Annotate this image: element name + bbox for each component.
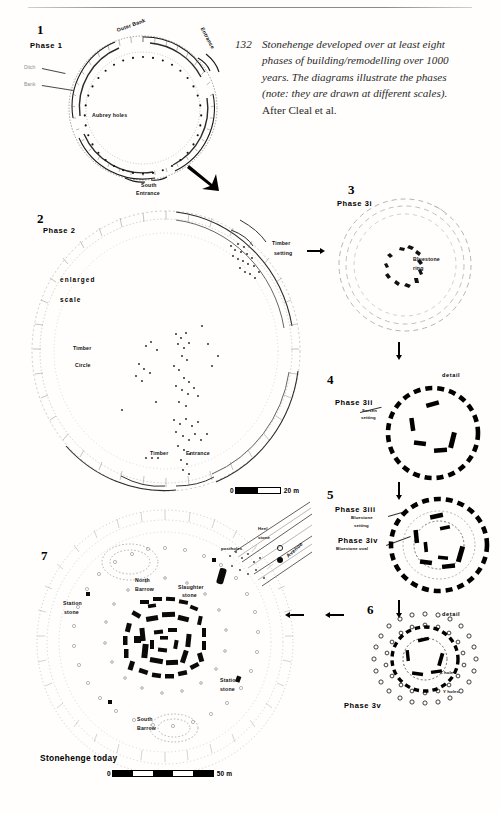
- figure-6-plan: [368, 608, 483, 708]
- figure-2-timber-entrance-label-1: Timber: [150, 450, 168, 456]
- figure-7-station-stone-label-3: Station: [220, 677, 239, 683]
- figure-2-enlarged-label: enlarged: [60, 276, 95, 283]
- figure-7-slaughter-stone-label-2: stone: [182, 592, 197, 598]
- figure-7-south-barrow-label-1: South: [137, 716, 153, 722]
- figure-2-scale-zero: 0: [230, 487, 234, 494]
- figure-7-postholes-label: postholes: [221, 546, 242, 551]
- caption-line-5: After Cleal et al.: [262, 104, 337, 116]
- caption-line-4: (note: they are drawn at different scale…: [262, 87, 447, 99]
- caption-number: 132: [235, 36, 252, 52]
- figure-7-plan: [22, 500, 312, 785]
- figure-3-plan: [330, 190, 480, 340]
- figure-7-scale-value: 50 m: [217, 770, 233, 777]
- figure-5-plan: [382, 490, 497, 600]
- figure-7-station-stone-label-4: stone: [220, 686, 235, 692]
- figure-7-scale-segments: [112, 770, 214, 777]
- page-canvas: 132 Stonehenge developed over at least e…: [0, 0, 500, 814]
- figure-7-south-barrow-label-2: Barrow: [137, 725, 156, 731]
- figure-7-heel-stone-label-2: stone: [258, 535, 270, 540]
- figure-5-number: 5: [327, 487, 334, 503]
- figure-7-north-barrow-label-1: North: [135, 577, 150, 583]
- figure-1-aubrey-holes-label: Aubrey holes: [92, 112, 127, 118]
- header-rule: [28, 7, 472, 8]
- figure-1-number: 1: [37, 22, 44, 38]
- figure-5-phase-b-label: Phase 3iv: [338, 536, 378, 545]
- arrow-fig2-to-fig3: [307, 248, 327, 254]
- figure-2-scale-value: 20 m: [284, 487, 300, 494]
- caption-line-3: years. The diagrams illustrate the phase…: [262, 71, 447, 83]
- figure-1-to-2-arrow: [186, 162, 220, 192]
- caption-line-2: phases of building/remodelling over 1000: [262, 54, 449, 66]
- figure-5-phase-a-label: Phase 3iii: [335, 505, 376, 514]
- arrow-fig3-to-fig4: [396, 342, 402, 362]
- figure-4-phase-label: Phase 3ii: [335, 398, 373, 407]
- figure-2-scale-bar: 0 20 m: [230, 487, 299, 494]
- figure-7-north-barrow-label-2: Barrow: [135, 586, 154, 592]
- figure-2-circle-label: Circle: [75, 362, 91, 368]
- figure-7-scale-zero: 0: [107, 770, 111, 777]
- figure-2-timber-label: Timber: [73, 345, 91, 351]
- figure-5-bluestone-setting-label-1: Bluestone: [351, 515, 373, 520]
- figure-1-ditch-label: Ditch: [24, 64, 35, 70]
- caption-line-1: Stonehenge developed over at least eight: [262, 38, 445, 50]
- figure-4-number: 4: [327, 372, 334, 388]
- figure-caption: 132 Stonehenge developed over at least e…: [262, 36, 484, 118]
- figure-7-title: Stonehenge today: [40, 753, 117, 763]
- figure-1-south-entrance-label: Entrance: [136, 190, 160, 196]
- figure-3-bluestone-ring-label-2: ring: [413, 265, 424, 271]
- figure-7-station-stone-label-2: stone: [64, 609, 79, 615]
- figure-7-heel-stone-label-1: Heel: [258, 526, 267, 531]
- figure-5-bluestone-oval-label: Bluestone oval: [336, 546, 368, 551]
- figure-2-scale-label: scale: [60, 296, 82, 303]
- figure-7-scale-bar: 0 50 m: [107, 770, 232, 777]
- arrow-fig6-to-fig7-second: [325, 612, 345, 618]
- figure-4-plan: [378, 378, 488, 488]
- figure-2-scale-segments: [235, 487, 281, 494]
- figure-7-slaughter-stone-label-1: Slaughter: [178, 584, 204, 590]
- figure-5-bluestone-setting-label-2: setting: [354, 523, 369, 528]
- figure-7-station-stone-label-1: Station: [63, 600, 82, 606]
- figure-2-timber-entrance-label-2: Entrance: [186, 450, 210, 456]
- figure-1-bank-label: Bank: [24, 81, 35, 87]
- figure-2-timber-setting-label-2: setting: [274, 250, 292, 256]
- figure-4-sarsen-label-2: setting: [361, 415, 376, 420]
- figure-2-timber-setting-label-1: Timber: [272, 240, 290, 246]
- figure-1-south-label: South: [141, 182, 157, 188]
- figure-3-bluestone-ring-label-1: Bluestone: [413, 256, 440, 262]
